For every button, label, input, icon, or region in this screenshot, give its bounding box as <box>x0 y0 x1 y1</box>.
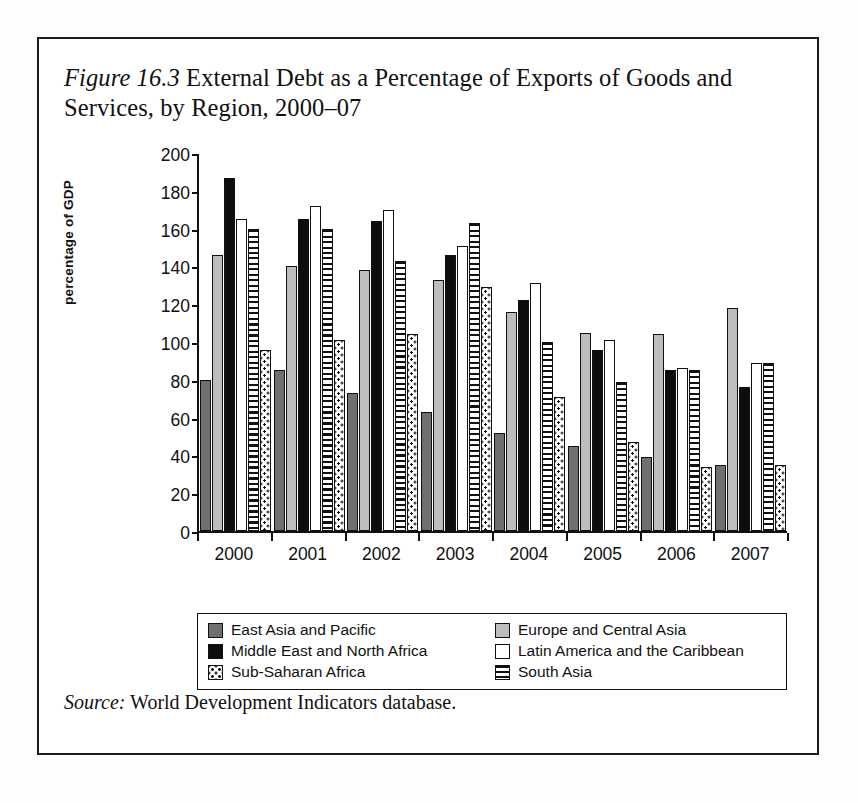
bar <box>701 467 712 531</box>
legend-label: East Asia and Pacific <box>231 621 376 639</box>
chart-axes: 020406080100120140160180200 <box>197 155 787 533</box>
figure-caption: Figure 16.3 External Debt as a Percentag… <box>64 63 764 123</box>
y-axis-tick-label: 200 <box>143 145 199 166</box>
legend-label: Sub-Saharan Africa <box>231 663 365 681</box>
bar <box>568 446 579 531</box>
legend-swatch-icon <box>495 623 510 638</box>
y-axis-tick-mark <box>192 305 199 307</box>
x-axis-tick-mark <box>566 533 568 541</box>
bar <box>407 334 418 531</box>
bar <box>689 370 700 531</box>
y-axis-tick-mark <box>192 343 199 345</box>
bar-group-2005 <box>567 155 639 531</box>
x-axis-tick-label: 2003 <box>418 533 492 567</box>
bar <box>580 333 591 531</box>
legend-item: South Asia <box>495 663 776 681</box>
bar <box>274 370 285 531</box>
bar <box>592 350 603 531</box>
legend-swatch-icon <box>208 644 223 659</box>
chart-plot-area: percentage of GDP 0204060801001201401601… <box>139 155 787 547</box>
x-axis-ticks: 20002001200220032004200520062007 <box>197 533 787 567</box>
y-axis-tick-label: 40 <box>143 447 199 468</box>
y-axis-tick-label: 160 <box>143 220 199 241</box>
bar <box>359 270 370 531</box>
legend-swatch-icon <box>208 665 223 680</box>
bar <box>298 219 309 531</box>
bar-group-2002 <box>347 155 419 531</box>
bar-group-2004 <box>494 155 566 531</box>
bar <box>518 300 529 531</box>
y-axis-tick-label: 0 <box>143 523 199 544</box>
bar <box>677 368 688 531</box>
bar <box>224 178 235 531</box>
y-axis-tick-mark <box>192 154 199 156</box>
bar <box>347 393 358 531</box>
legend-item: Sub-Saharan Africa <box>208 663 489 681</box>
chart-legend: East Asia and PacificEurope and Central … <box>197 613 787 690</box>
y-axis-tick-label: 140 <box>143 258 199 279</box>
bar <box>445 255 456 531</box>
x-axis-tick-mark <box>713 533 715 541</box>
legend-label: Europe and Central Asia <box>518 621 686 639</box>
legend-label: South Asia <box>518 663 592 681</box>
bar-group-2007 <box>714 155 786 531</box>
bar <box>775 465 786 531</box>
x-axis-tick-label: 2007 <box>713 533 787 567</box>
bar <box>383 210 394 531</box>
bar <box>763 363 774 531</box>
bar <box>727 308 738 531</box>
legend-label: Middle East and North Africa <box>231 642 427 660</box>
x-axis-tick-mark <box>787 533 789 541</box>
x-axis-tick-mark <box>492 533 494 541</box>
legend-item: Middle East and North Africa <box>208 642 489 660</box>
bar <box>457 246 468 531</box>
y-axis-tick-label: 100 <box>143 334 199 355</box>
bar <box>236 219 247 531</box>
x-axis-tick-label: 2004 <box>492 533 566 567</box>
bar <box>715 465 726 531</box>
figure-frame: Figure 16.3 External Debt as a Percentag… <box>37 37 819 755</box>
y-axis-tick-mark <box>192 192 199 194</box>
bar <box>481 287 492 531</box>
bar <box>260 350 271 531</box>
y-axis-tick-mark <box>192 230 199 232</box>
bar <box>542 342 553 531</box>
bar <box>616 382 627 531</box>
bar <box>554 397 565 531</box>
x-axis-tick-mark <box>345 533 347 541</box>
bar-group-2001 <box>273 155 345 531</box>
source-label: Source: <box>64 691 125 713</box>
x-axis-tick-label: 2005 <box>566 533 640 567</box>
bar <box>665 370 676 531</box>
bar <box>628 442 639 531</box>
y-axis-title: percentage of GDP <box>61 105 76 305</box>
bar-group-2006 <box>641 155 713 531</box>
bar <box>212 255 223 531</box>
bar-group-2003 <box>420 155 492 531</box>
bar <box>200 380 211 531</box>
legend-item: Latin America and the Caribbean <box>495 642 776 660</box>
bar <box>286 266 297 531</box>
bar-group-2000 <box>200 155 272 531</box>
bar <box>739 387 750 531</box>
bar <box>506 312 517 531</box>
x-axis-tick-mark <box>197 533 199 541</box>
figure-source: Source: World Development Indicators dat… <box>64 691 456 714</box>
bar <box>395 261 406 531</box>
y-axis-tick-mark <box>192 419 199 421</box>
bar <box>751 363 762 531</box>
legend-swatch-icon <box>495 665 510 680</box>
y-axis-tick-mark <box>192 267 199 269</box>
bar <box>530 283 541 531</box>
bar <box>310 206 321 531</box>
bar <box>641 457 652 531</box>
x-axis-tick-label: 2000 <box>197 533 271 567</box>
bar <box>604 340 615 531</box>
legend-label: Latin America and the Caribbean <box>518 642 744 660</box>
y-axis-tick-mark <box>192 456 199 458</box>
source-text: World Development Indicators database. <box>125 691 456 713</box>
y-axis-tick-mark <box>192 494 199 496</box>
bar <box>421 412 432 531</box>
legend-swatch-icon <box>495 644 510 659</box>
x-axis-tick-label: 2006 <box>640 533 714 567</box>
